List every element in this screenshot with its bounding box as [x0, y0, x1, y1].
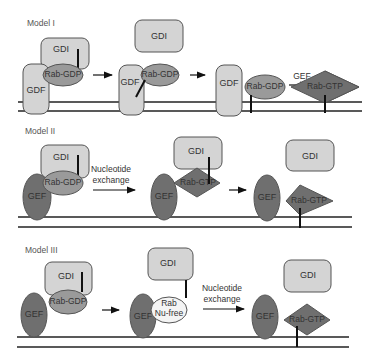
gdi-label: GDI: [53, 152, 69, 162]
rab-gtp-label: Rab-GTP: [180, 177, 216, 187]
nucleotide-exchange-label: Nucleotide: [202, 283, 242, 293]
gdi-label: GDI: [188, 146, 204, 156]
gdi-label: GDI: [151, 31, 167, 41]
model-3-title: Model III: [25, 245, 58, 255]
gef-label: GEF: [258, 192, 277, 202]
gdf-label: GDF: [220, 78, 240, 88]
nucleotide-exchange-label: exchange: [93, 175, 130, 185]
model-1-title: Model I: [27, 18, 55, 28]
rab-gdp-label: Rab-GDP: [142, 69, 179, 79]
model-2-title: Model II: [25, 126, 55, 136]
rab-nu-free-label: Nu-free: [155, 308, 184, 318]
gdi-label: GDI: [302, 151, 318, 161]
gef-label: GEF: [134, 311, 153, 321]
gdi-label: GDI: [53, 44, 69, 54]
rab-activation-diagram: Model I GDI GDF Rab-GDP GDI GDF Rab-GDP …: [0, 0, 377, 363]
gdf-label: GDF: [121, 77, 141, 87]
gdi-label: GDI: [300, 270, 316, 280]
gef-label: GEF: [155, 191, 174, 201]
gdf-shape: [216, 65, 242, 116]
model-1: Model I GDI GDF Rab-GDP GDI GDF Rab-GDP …: [18, 18, 362, 116]
gdi-label: GDI: [58, 271, 74, 281]
rab-gtp-label: Rab-GTP: [307, 81, 343, 91]
rab-nu-free-label: Rab: [161, 298, 177, 308]
nucleotide-exchange-label: Nucleotide: [91, 164, 131, 174]
model-2: Model II GDI GEF Rab-GDP Nucleotide exch…: [18, 126, 352, 228]
model-3: Model III GDI GEF Rab-GDP GDI GEF Rab Nu…: [17, 245, 349, 347]
gdi-label: GDI: [160, 258, 176, 268]
gef-label: GEF: [256, 311, 275, 321]
rab-gdp-label: Rab-GDP: [45, 177, 82, 187]
rab-gdp-label: Rab-GDP: [247, 81, 284, 91]
nucleotide-exchange-label: exchange: [204, 294, 241, 304]
rab-gtp-label: Rab-GTP: [291, 195, 327, 205]
gdf-label: GDF: [27, 85, 47, 95]
gef-label: GEF: [25, 309, 44, 319]
gef-label: GEF: [28, 191, 47, 201]
rab-gdp-label: Rab-GDP: [50, 296, 87, 306]
rab-gtp-label: Rab-GTP: [289, 314, 325, 324]
rab-gdp-label: Rab-GDP: [45, 69, 82, 79]
